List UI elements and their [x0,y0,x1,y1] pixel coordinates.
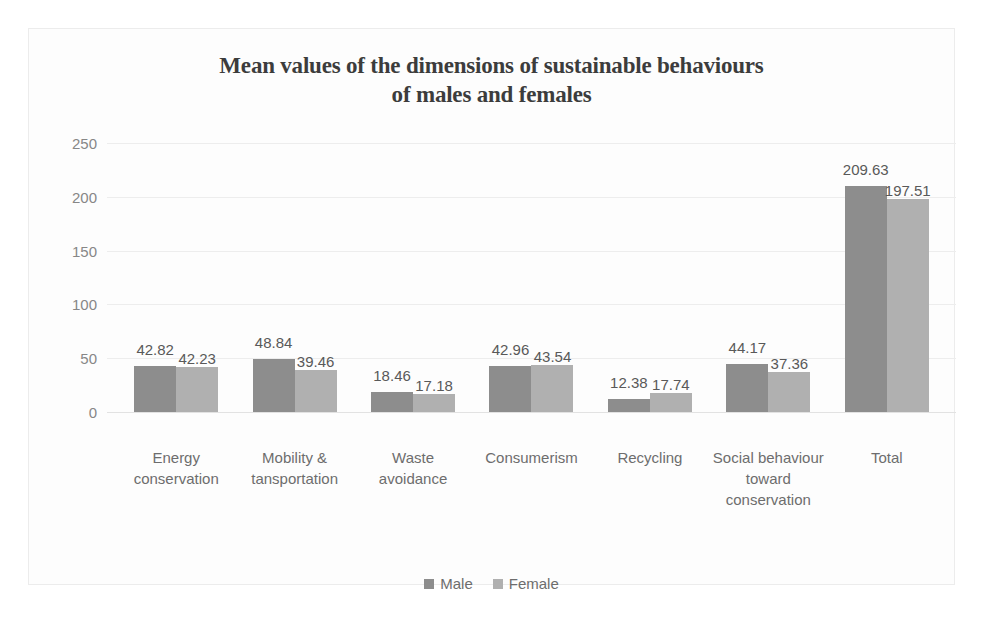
bar-female[interactable]: 39.46 [295,370,337,412]
chart-legend: MaleFemale [29,575,954,592]
legend-item-female[interactable]: Female [493,575,559,592]
x-axis-category-label: Mobility & tansportation [235,447,353,510]
y-axis-tick-label: 0 [89,404,97,421]
legend-label: Male [440,575,473,592]
bar-male[interactable]: 48.84 [253,359,295,412]
bar-slot: 17.18 [413,143,455,412]
bar-value-label: 17.18 [415,377,453,394]
bar-male[interactable]: 42.82 [134,366,176,412]
bar-value-label: 42.96 [492,341,530,358]
bar-group: 209.63197.51 [828,143,946,412]
chart-title: Mean values of the dimensions of sustain… [29,51,954,109]
plot-area: 250200150100500 42.8242.2348.8439.4618.4… [107,143,956,412]
bar-value-label: 44.17 [729,339,767,356]
bar-female[interactable]: 17.18 [413,394,455,412]
chart-title-line-2: of males and females [29,80,954,109]
chart-container: Mean values of the dimensions of sustain… [28,28,955,585]
y-axis-tick-label: 200 [72,188,97,205]
chart-title-line-1: Mean values of the dimensions of sustain… [29,51,954,80]
x-axis-labels: Energy conservationMobility & tansportat… [107,447,956,510]
bar-value-label: 209.63 [843,161,889,178]
x-axis-category-label: Consumerism [472,447,590,510]
bar-value-label: 42.23 [178,350,216,367]
bar-slot: 209.63 [845,143,887,412]
bar-value-label: 43.54 [534,348,572,365]
bar-slot: 12.38 [608,143,650,412]
legend-swatch-icon [424,579,434,589]
x-axis-category-label: Social behaviour toward conservation [709,447,827,510]
bar-group: 42.9643.54 [472,143,590,412]
bar-groups: 42.8242.2348.8439.4618.4617.1842.9643.54… [107,143,956,412]
bar-male[interactable]: 42.96 [489,366,531,412]
bar-value-label: 17.74 [652,376,690,393]
y-axis-tick-label: 150 [72,242,97,259]
gridline [107,412,956,413]
bar-slot: 17.74 [650,143,692,412]
x-axis-category-label: Energy conservation [117,447,235,510]
legend-item-male[interactable]: Male [424,575,473,592]
bar-female[interactable]: 197.51 [887,199,929,412]
bar-slot: 42.23 [176,143,218,412]
bar-value-label: 197.51 [885,182,931,199]
bar-value-label: 37.36 [771,355,809,372]
bar-male[interactable]: 12.38 [608,399,650,412]
legend-label: Female [509,575,559,592]
bar-value-label: 39.46 [297,353,335,370]
bar-male[interactable]: 18.46 [371,392,413,412]
bar-female[interactable]: 42.23 [176,367,218,412]
bar-value-label: 12.38 [610,374,648,391]
bar-slot: 37.36 [768,143,810,412]
bar-group: 44.1737.36 [709,143,827,412]
x-axis-category-label: Waste avoidance [354,447,472,510]
bar-group: 18.4617.18 [354,143,472,412]
y-axis-tick-label: 250 [72,135,97,152]
bar-slot: 39.46 [295,143,337,412]
x-axis-category-label: Recycling [591,447,709,510]
bar-slot: 44.17 [726,143,768,412]
bar-slot: 48.84 [253,143,295,412]
y-axis-tick-label: 100 [72,296,97,313]
legend-swatch-icon [493,579,503,589]
y-axis-tick-label: 50 [80,350,97,367]
bar-female[interactable]: 43.54 [531,365,573,412]
bar-group: 48.8439.46 [235,143,353,412]
bar-slot: 42.96 [489,143,531,412]
bar-slot: 43.54 [531,143,573,412]
bar-slot: 18.46 [371,143,413,412]
bar-group: 42.8242.23 [117,143,235,412]
bar-value-label: 48.84 [255,334,293,351]
bar-value-label: 42.82 [136,341,174,358]
bar-slot: 42.82 [134,143,176,412]
bar-male[interactable]: 44.17 [726,364,768,412]
bar-female[interactable]: 37.36 [768,372,810,412]
bar-female[interactable]: 17.74 [650,393,692,412]
bar-male[interactable]: 209.63 [845,186,887,412]
x-axis-category-label: Total [828,447,946,510]
bar-slot: 197.51 [887,143,929,412]
bar-group: 12.3817.74 [591,143,709,412]
bar-value-label: 18.46 [373,367,411,384]
